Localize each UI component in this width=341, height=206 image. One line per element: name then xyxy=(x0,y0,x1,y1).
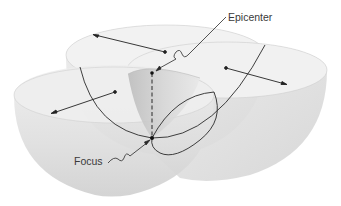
earthquake-wavefront-diagram xyxy=(0,0,341,206)
epicenter-label: Epicenter xyxy=(228,11,272,23)
epicenter-dot xyxy=(150,71,154,75)
focus-label: Focus xyxy=(74,155,103,167)
